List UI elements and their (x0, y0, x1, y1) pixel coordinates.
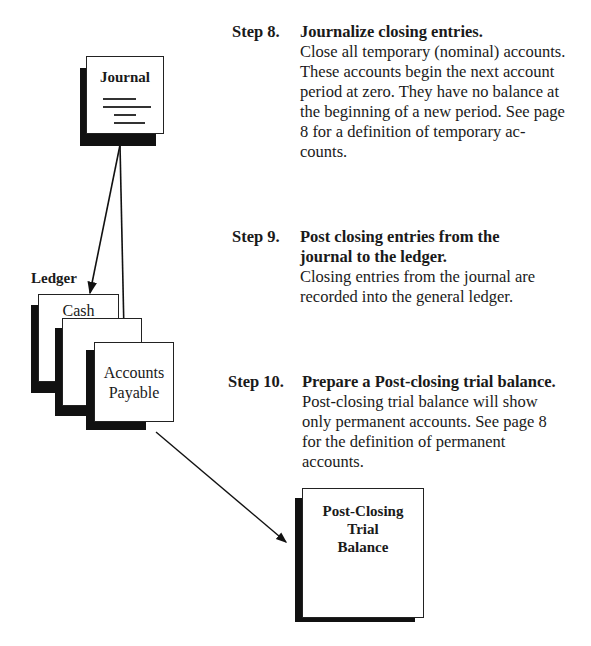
ledger-label: Ledger (31, 270, 77, 287)
step-9: Step 9. Post closing entries from the jo… (232, 227, 572, 307)
arrow-journal-to-cash (90, 145, 120, 293)
journal-title: Journal (87, 68, 163, 86)
step-title: Journalize closing entries. (300, 22, 572, 42)
step-body: Close all temporary (nominal) accounts. … (300, 42, 570, 162)
ledger-card-accounts-payable: Accounts Payable (94, 342, 174, 422)
accounts-payable-line1: Accounts (95, 363, 173, 383)
journal-line-icon (103, 98, 136, 100)
step-title: Post closing entries from the journal to… (300, 227, 550, 267)
post-closing-line2: Trial (303, 520, 423, 538)
journal-line-icon (114, 122, 145, 124)
step-10: Step 10. Prepare a Post-closing trial ba… (228, 372, 568, 472)
step-body: Closing entries from the journal are rec… (300, 267, 550, 307)
accounts-payable-line2: Payable (95, 383, 173, 403)
step-number: Step 8. (232, 22, 280, 42)
step-8: Step 8. Journalize closing entries. Clos… (232, 22, 572, 162)
step-title: Prepare a Post-closing trial balance. (302, 372, 568, 392)
journal-line-icon (114, 114, 136, 116)
step-number: Step 9. (232, 227, 280, 247)
step-number: Step 10. (228, 372, 284, 392)
arrow-journal-to-ledger-card (120, 145, 124, 332)
journal-line-icon (103, 106, 151, 108)
step-body: Post-closing trial balance will show onl… (302, 392, 567, 472)
post-closing-line3: Balance (303, 538, 423, 556)
post-closing-line1: Post-Closing (303, 502, 423, 520)
